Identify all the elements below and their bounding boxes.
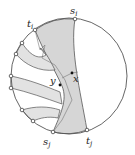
label-s-j: sj xyxy=(43,136,51,149)
boundary-point xyxy=(9,86,13,90)
point-t-j xyxy=(85,128,89,132)
point-t-i xyxy=(33,28,37,32)
boundary-point xyxy=(31,119,35,123)
label-x: x xyxy=(73,73,79,84)
label-s-i: si xyxy=(70,5,77,18)
boundary-point xyxy=(20,108,24,112)
point-s-j xyxy=(51,130,55,134)
boundary-point xyxy=(20,41,24,45)
boundary-point xyxy=(14,52,18,56)
label-t-j: tj xyxy=(86,135,93,148)
disk-diagram: si ti sj tj x y xyxy=(0,0,135,155)
point-y xyxy=(59,84,62,87)
label-t-i: ti xyxy=(27,18,33,31)
stripe-region-3 xyxy=(22,107,60,121)
boundary-point xyxy=(9,74,13,78)
label-y: y xyxy=(49,75,56,86)
